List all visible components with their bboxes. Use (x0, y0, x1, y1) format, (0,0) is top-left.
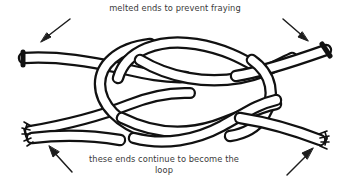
knot-illustration (0, 0, 350, 188)
arrow-top-left-icon (41, 19, 70, 42)
arrow-bottom-right-icon (287, 148, 313, 175)
knot-diagram: melted ends to prevent fraying these end… (0, 0, 350, 188)
arrow-bottom-left-icon (49, 146, 72, 172)
arrow-top-right-icon (283, 19, 308, 41)
rope-lower-left-tail-b (32, 136, 120, 140)
